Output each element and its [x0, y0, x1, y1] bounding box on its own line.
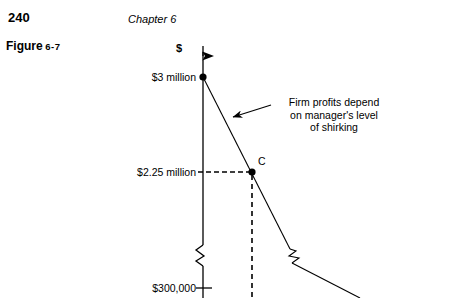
annotation-shirking-note: Firm profits depend on manager's level o…	[272, 96, 396, 134]
y-tick-label-3million: $3 million	[86, 71, 196, 83]
point-label-c: C	[258, 155, 266, 167]
annotation-line-2: on manager's level	[272, 109, 396, 122]
y-tick-label-300000: $300,000	[80, 282, 196, 294]
y-axis-title: $	[176, 42, 182, 54]
y-tick-label-225million: $2.25 million	[66, 166, 196, 178]
figure-chart	[0, 0, 468, 298]
annotation-line-1: Firm profits depend	[272, 96, 396, 109]
annotation-line-3: of shirking	[272, 121, 396, 134]
marker-3million	[199, 73, 206, 80]
annotation-leader-line	[233, 105, 271, 117]
y-axis-break-icon	[196, 245, 204, 266]
marker-point-c	[248, 168, 255, 175]
figure-page: 240 Chapter 6 Figure 6-7	[0, 0, 468, 298]
